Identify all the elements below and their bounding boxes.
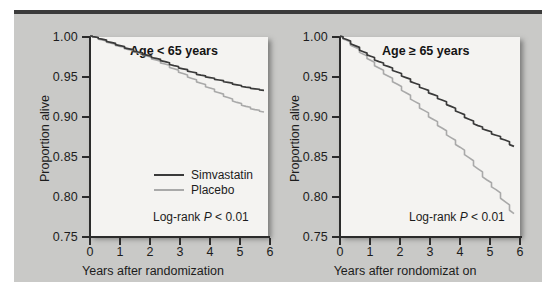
figure-panel: 1.00 0.95 0.90 0.85 0.80 0.75 0 1 2 3 4 …	[14, 10, 542, 282]
curves-right	[278, 14, 542, 286]
curve-simvastatin-right	[340, 36, 514, 146]
curve-placebo-right	[340, 36, 514, 214]
curve-placebo-left	[90, 36, 264, 112]
chart-panel-age-under-65: 1.00 0.95 0.90 0.85 0.80 0.75 0 1 2 3 4 …	[14, 14, 278, 286]
curve-simvastatin-left	[90, 36, 264, 90]
chart-panel-age-65-and-over: 1.00 0.95 0.90 0.85 0.80 0.75 0 1 2 3 4 …	[278, 14, 542, 286]
curves-left	[14, 14, 278, 286]
